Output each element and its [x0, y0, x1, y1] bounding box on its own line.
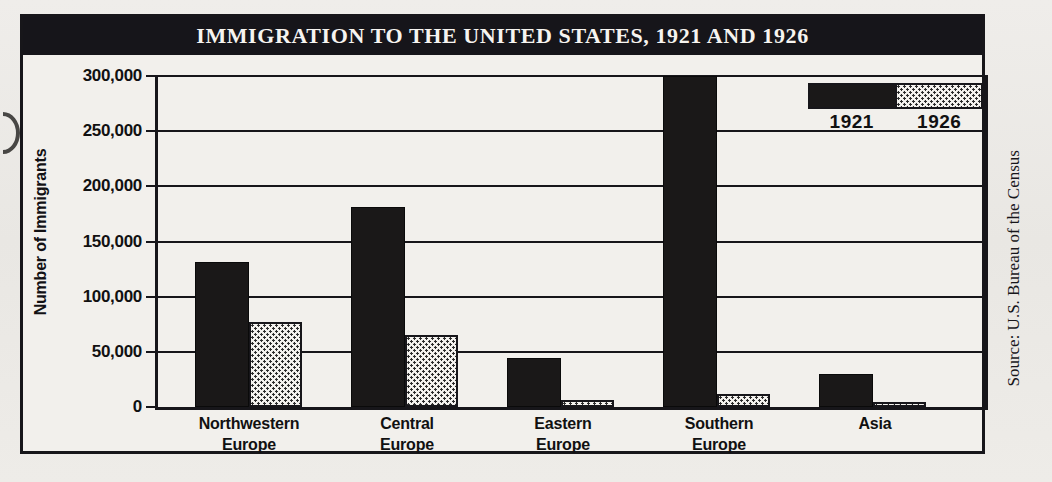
bar-asia-1926	[873, 402, 926, 407]
bar-northwestern-europe-1926	[249, 322, 302, 407]
ytick-200000	[146, 185, 155, 187]
legend-swatches	[808, 83, 983, 109]
chart-title: IMMIGRATION TO THE UNITED STATES, 1921 A…	[23, 17, 982, 55]
category-line-1: Eastern	[489, 413, 637, 434]
legend-swatch-1921	[810, 85, 895, 107]
bar-southern-europe-1926	[717, 394, 770, 407]
chart-body: Number of Immigrants 300,000 250,000 200…	[23, 55, 982, 451]
legend-labels: 1921 1926	[808, 111, 983, 133]
category-line-2: Europe	[489, 434, 637, 455]
category-line-2: Europe	[645, 434, 793, 455]
legend-swatch-1926	[895, 85, 982, 107]
ytick-label-150000: 150,000	[83, 232, 142, 252]
ytick-300000	[146, 75, 155, 77]
ytick-label-0: 0	[133, 397, 142, 417]
bar-eastern-europe-1921	[507, 358, 561, 407]
category-line-2: Europe	[333, 434, 481, 455]
category-label-eastern-europe: Eastern Europe	[489, 413, 637, 455]
category-label-asia: Asia	[801, 413, 949, 434]
bar-central-europe-1921	[351, 207, 405, 407]
x-axis-line	[155, 407, 988, 410]
category-label-northwestern-europe: Northwestern Europe	[175, 413, 323, 455]
bar-eastern-europe-1926	[561, 400, 614, 407]
chart-figure: IMMIGRATION TO THE UNITED STATES, 1921 A…	[20, 14, 985, 454]
plot-area: 300,000 250,000 200,000 150,000 100,000 …	[155, 75, 988, 410]
ytick-100000	[146, 296, 155, 298]
y-axis-title: Number of Immigrants	[32, 122, 50, 342]
ytick-0	[146, 406, 155, 408]
category-line-1: Central	[333, 413, 481, 434]
bar-asia-1921	[819, 374, 873, 407]
ytick-50000	[146, 351, 155, 353]
ytick-150000	[146, 241, 155, 243]
legend: 1921 1926	[808, 83, 983, 133]
source-note: Source: U.S. Bureau of the Census	[1004, 150, 1024, 387]
category-line-2: Europe	[175, 434, 323, 455]
ytick-label-50000: 50,000	[92, 342, 142, 362]
x-axis-labels: Northwestern Europe Central Europe Easte…	[155, 413, 982, 469]
bar-northwestern-europe-1921	[195, 262, 249, 407]
category-line-1: Northwestern	[175, 413, 323, 434]
category-label-southern-europe: Southern Europe	[645, 413, 793, 455]
legend-label-1921: 1921	[808, 111, 896, 133]
bar-central-europe-1926	[405, 335, 458, 407]
ytick-label-250000: 250,000	[83, 121, 142, 141]
ytick-label-300000: 300,000	[83, 66, 142, 86]
ytick-label-200000: 200,000	[83, 176, 142, 196]
category-line-1: Southern	[645, 413, 793, 434]
ytick-250000	[146, 130, 155, 132]
ytick-label-100000: 100,000	[83, 287, 142, 307]
category-line-1: Asia	[801, 413, 949, 434]
bar-southern-europe-1921	[663, 76, 717, 407]
legend-label-1926: 1926	[896, 111, 984, 133]
category-label-central-europe: Central Europe	[333, 413, 481, 455]
